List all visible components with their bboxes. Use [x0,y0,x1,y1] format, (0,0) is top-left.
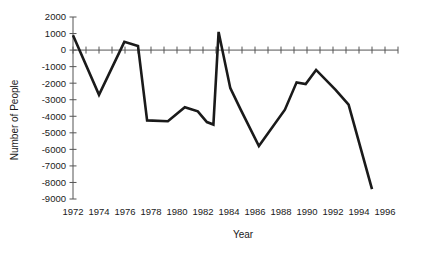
x-tick-label: 1976 [114,206,135,217]
x-tick-label: 1994 [348,206,369,217]
x-tick-label: 1990 [296,206,317,217]
x-tick-label: 1996 [374,206,395,217]
y-tick-label: -3000 [42,94,66,105]
y-tick-label: -2000 [42,78,66,89]
y-tick-label: -5000 [42,127,66,138]
y-tick-label: 2000 [45,11,66,22]
y-axis: 200010000-1000-2000-3000-4000-5000-6000-… [42,11,77,204]
y-tick-label: -9000 [42,193,66,204]
x-tick-label: 1988 [270,206,291,217]
y-tick-label: 1000 [45,28,66,39]
x-axis-title: Year [233,229,254,240]
y-tick-label: -6000 [42,144,66,155]
y-tick-label: -7000 [42,160,66,171]
x-tick-label: 1984 [218,206,239,217]
line-chart: 200010000-1000-2000-3000-4000-5000-6000-… [0,0,434,260]
x-tick-label: 1992 [322,206,343,217]
data-series [73,32,372,189]
x-tick-label: 1974 [88,206,109,217]
x-axis: 1972197419761978198019821984198619881990… [62,47,398,217]
y-tick-label: -1000 [42,61,66,72]
y-tick-label: -4000 [42,111,66,122]
x-tick-label: 1972 [62,206,83,217]
x-tick-label: 1982 [192,206,213,217]
x-tick-label: 1978 [140,206,161,217]
chart-canvas: 200010000-1000-2000-3000-4000-5000-6000-… [0,0,434,260]
x-tick-label: 1986 [244,206,265,217]
y-tick-label: 0 [61,44,66,55]
y-tick-label: -8000 [42,177,66,188]
y-axis-title: Number of People [9,79,20,160]
x-tick-label: 1980 [166,206,187,217]
series-line-number-of-people [73,32,372,189]
